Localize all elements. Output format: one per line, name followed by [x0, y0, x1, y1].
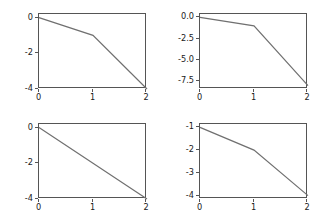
ytick-mark-bottom-right-1: [196, 149, 199, 150]
ytick-label-top-right-3: -7.5: [166, 76, 194, 84]
ytick-label-bottom-left-1: -2: [14, 158, 33, 166]
xtick-label-bottom-right-2: 2: [304, 203, 309, 211]
ytick-mark-bottom-right-3: [196, 195, 199, 196]
ytick-label-bottom-right-1: -2: [173, 145, 194, 153]
data-line-top-right: [200, 17, 308, 85]
ytick-mark-bottom-right-0: [196, 126, 199, 127]
line-series-top-right: [200, 14, 308, 89]
ytick-mark-bottom-right-2: [196, 172, 199, 173]
ytick-mark-top-right-2: [196, 59, 199, 60]
xtick-label-bottom-left-2: 2: [143, 203, 148, 211]
ytick-mark-top-right-0: [196, 16, 199, 17]
ytick-label-top-left-0: 0: [14, 12, 33, 20]
ytick-mark-top-left-1: [35, 52, 38, 53]
plot-frame-top-left: [38, 13, 146, 88]
ytick-label-bottom-right-3: -4: [173, 190, 194, 198]
figure-canvas: 0 -2 -4 0 1 2 0.0 -2.5 -5.0 -7.5 0 1 2: [0, 0, 322, 223]
ytick-label-top-right-0: 0.0: [166, 12, 194, 20]
ytick-mark-top-left-0: [35, 17, 38, 18]
ytick-label-bottom-left-2: -4: [14, 194, 33, 202]
xtick-label-bottom-right-1: 1: [251, 203, 256, 211]
xtick-label-top-right-2: 2: [304, 93, 309, 101]
data-line-bottom-left: [39, 128, 147, 199]
xtick-label-bottom-right-0: 0: [197, 203, 202, 211]
xtick-label-bottom-left-1: 1: [90, 203, 95, 211]
ytick-mark-top-right-3: [196, 80, 199, 81]
xtick-label-top-left-0: 0: [36, 93, 41, 101]
line-series-bottom-left: [39, 124, 147, 199]
plot-frame-bottom-right: [199, 123, 307, 198]
ytick-label-top-right-1: -2.5: [166, 34, 194, 42]
plot-frame-bottom-left: [38, 123, 146, 198]
ytick-label-bottom-right-2: -3: [173, 168, 194, 176]
line-series-bottom-right: [200, 124, 308, 199]
ytick-label-top-left-1: -2: [14, 48, 33, 56]
line-series-top-left: [39, 14, 147, 89]
xtick-label-top-left-1: 1: [90, 93, 95, 101]
ytick-mark-top-right-1: [196, 38, 199, 39]
ytick-label-bottom-left-0: 0: [14, 122, 33, 130]
ytick-mark-bottom-left-1: [35, 162, 38, 163]
ytick-label-top-right-2: -5.0: [166, 55, 194, 63]
xtick-label-top-right-0: 0: [197, 93, 202, 101]
ytick-label-top-left-2: -4: [14, 84, 33, 92]
ytick-label-bottom-right-0: -1: [173, 122, 194, 130]
plot-frame-top-right: [199, 13, 307, 88]
data-line-bottom-right: [200, 127, 308, 195]
ytick-mark-bottom-left-0: [35, 127, 38, 128]
xtick-label-bottom-left-0: 0: [36, 203, 41, 211]
data-line-top-left: [39, 18, 147, 89]
xtick-label-top-right-1: 1: [251, 93, 256, 101]
xtick-label-top-left-2: 2: [143, 93, 148, 101]
